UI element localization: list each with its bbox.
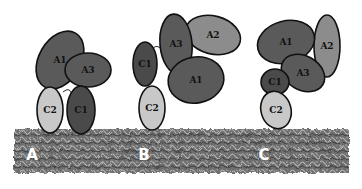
domain-label: A3 bbox=[80, 65, 94, 75]
panel-label-c: C bbox=[258, 146, 269, 164]
domain-c2: C2 bbox=[257, 88, 296, 132]
panel-c: A2A1A3C1C2 bbox=[253, 14, 340, 132]
diagram-canvas: A1A3C2C1A2C1A3A1C2A2A1A3C1C2 ABC bbox=[0, 0, 362, 189]
domain-c1: C1 bbox=[133, 42, 157, 86]
membrane-bilayer bbox=[14, 129, 349, 173]
protein-membrane-diagram: A1A3C2C1A2C1A3A1C2A2A1A3C1C2 ABC bbox=[0, 0, 362, 189]
domain-label: C2 bbox=[43, 105, 56, 115]
domain-label: A3 bbox=[168, 39, 182, 49]
domain-label: C1 bbox=[268, 77, 281, 87]
domain-label: A1 bbox=[188, 75, 202, 85]
domain-label: A1 bbox=[278, 37, 292, 47]
panel-a: A1A3C2C1 bbox=[26, 23, 111, 134]
domain-a3: A3 bbox=[65, 53, 111, 87]
domain-label: A2 bbox=[205, 30, 219, 40]
domain-label: C1 bbox=[138, 59, 151, 69]
domain-label: A1 bbox=[52, 55, 66, 65]
domain-label: C2 bbox=[145, 103, 158, 113]
panel-label-b: B bbox=[138, 146, 149, 164]
domain-label: C2 bbox=[269, 105, 282, 115]
domain-c1: C1 bbox=[67, 86, 95, 134]
domain-label: A2 bbox=[319, 41, 333, 51]
panel-b: A2C1A3A1C2 bbox=[133, 9, 245, 130]
domain-label: A3 bbox=[295, 68, 309, 78]
domain-label: C1 bbox=[74, 105, 87, 115]
domain-c2: C2 bbox=[37, 87, 63, 133]
domain-c2: C2 bbox=[139, 86, 165, 130]
panel-label-a: A bbox=[26, 146, 38, 164]
